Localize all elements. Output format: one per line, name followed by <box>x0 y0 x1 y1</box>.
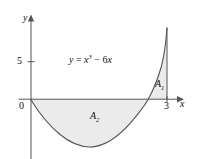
equation-part-minus-six: − 6 <box>92 54 108 65</box>
y-tick-label-5: 5 <box>17 56 22 66</box>
area-label-a2: A2 <box>90 111 99 121</box>
equation-part-equals: = <box>73 54 84 65</box>
figure-container: y x 5 0 3 y = x3 − 6x A1 A2 <box>0 0 200 159</box>
y-axis-label: y <box>23 13 27 23</box>
area-label-a1-subscript: 1 <box>161 84 164 91</box>
area-label-a1: A1 <box>155 79 164 89</box>
x-axis-label: x <box>180 99 184 109</box>
origin-label: 0 <box>19 101 24 111</box>
x-tick-label-3: 3 <box>164 101 169 111</box>
equation-part-trailing-x: x <box>107 54 111 65</box>
plot-canvas <box>0 0 200 159</box>
y-axis-arrowhead <box>28 15 34 22</box>
equation-annotation: y = x3 − 6x <box>69 55 112 65</box>
area-label-a2-subscript: 2 <box>96 116 99 123</box>
